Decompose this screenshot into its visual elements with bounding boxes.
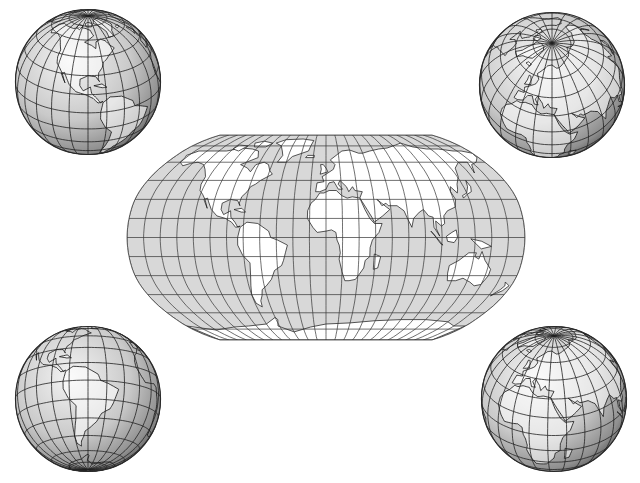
robinson-world-map [127,135,525,340]
globe-bottom-right [481,326,627,472]
globe-top-left [15,9,161,155]
world-map-figure [0,0,640,483]
globe-top-right [479,12,625,158]
globe-bottom-left [15,326,161,472]
